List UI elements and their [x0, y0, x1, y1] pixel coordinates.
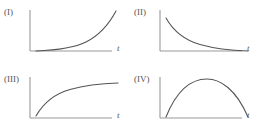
panel-3-x-axis-label: t	[117, 110, 120, 120]
panel-3-plot	[0, 67, 130, 134]
panel-3: (III) t	[0, 67, 130, 134]
panel-2-x-axis-label: t	[247, 43, 250, 53]
panel-1-x-axis-label: t	[117, 43, 120, 53]
inverted-parabola-curve	[166, 79, 248, 117]
four-panel-curve-figure: (I) t (II) t (III)	[0, 0, 261, 134]
panel-4-x-axis-label: t	[247, 110, 250, 120]
panel-4-plot	[130, 67, 260, 134]
panel-1-plot	[0, 0, 130, 67]
exponential-growth-curve	[36, 11, 116, 51]
exponential-decay-curve	[166, 18, 248, 51]
panel-2: (II) t	[130, 0, 260, 67]
saturating-growth-curve	[36, 83, 118, 116]
panel-1: (I) t	[0, 0, 130, 67]
panel-2-plot	[130, 0, 260, 67]
panel-4: (IV) t	[130, 67, 260, 134]
